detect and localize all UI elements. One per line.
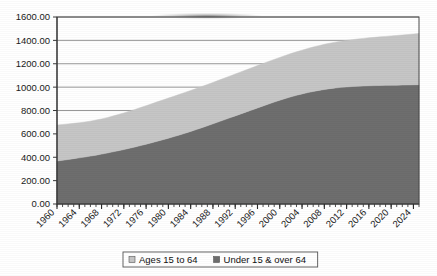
x-axis: 1960196419681972197619801984198819921996… (34, 204, 419, 229)
x-tick-label: 1980 (145, 207, 168, 230)
x-tick-label: 1988 (190, 207, 213, 230)
x-tick-label: 2004 (279, 207, 302, 230)
x-tick-label: 2024 (390, 207, 413, 230)
y-tick-label: 400.00 (21, 152, 50, 163)
x-tick-label: 1984 (167, 207, 190, 230)
y-tick-label: 1400.00 (16, 35, 50, 46)
legend-swatch (129, 257, 135, 263)
legend-label: Under 15 & over 64 (224, 254, 306, 265)
legend-label: Ages 15 to 64 (139, 254, 198, 265)
chart-legend: Ages 15 to 64Under 15 & over 64 (123, 252, 318, 267)
y-tick-label: 1000.00 (16, 82, 50, 93)
x-tick-label: 1976 (123, 207, 146, 230)
y-tick-label: 1600.00 (16, 11, 50, 22)
x-tick-label: 1992 (212, 207, 235, 230)
legend-swatch (214, 257, 220, 263)
x-tick-label: 1972 (101, 207, 124, 230)
x-tick-label: 2016 (346, 207, 369, 230)
y-axis: 0.00200.00400.00600.00800.001000.001200.… (16, 11, 57, 209)
x-tick-label: 2020 (368, 207, 391, 230)
y-tick-label: 800.00 (21, 105, 50, 116)
y-tick-label: 1200.00 (16, 58, 50, 69)
x-tick-label: 1960 (34, 207, 57, 230)
x-tick-label: 2008 (301, 207, 324, 230)
x-tick-label: 1964 (56, 207, 79, 230)
x-tick-label: 1968 (78, 207, 101, 230)
area-chart: 0.00200.00400.00600.00800.001000.001200.… (0, 0, 437, 276)
y-tick-label: 600.00 (21, 128, 50, 139)
chart-canvas: 0.00200.00400.00600.00800.001000.001200.… (0, 0, 437, 276)
x-tick-label: 2000 (256, 207, 279, 230)
y-tick-label: 200.00 (21, 175, 50, 186)
x-tick-label: 1996 (234, 207, 257, 230)
x-tick-label: 2012 (323, 207, 346, 230)
